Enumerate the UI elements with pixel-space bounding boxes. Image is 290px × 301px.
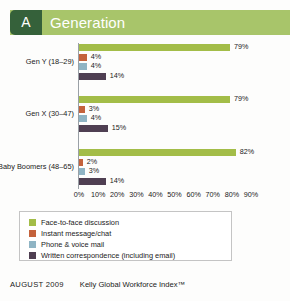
bar-value-label: 4% [91,61,101,71]
legend-item: Instant message/chat [29,228,231,238]
bar-row: 3% [79,106,251,113]
bar-row: 79% [79,96,251,103]
legend-item: Phone & voice mail [29,239,231,249]
footer-source: Kelly Global Workforce Index™ [80,280,185,289]
chart-page: A Generation Gen Y (18–29)79%4%4%14%Gen … [0,0,290,301]
bar [79,63,87,70]
legend-label: Instant message/chat [41,229,111,238]
bar [79,168,85,175]
x-axis-tick-label: 50% [167,190,181,200]
section-banner: A Generation [10,10,290,35]
bar-row: 4% [79,63,251,70]
bar-row: 3% [79,168,251,175]
bar [79,115,87,122]
bar-value-label: 79% [234,42,248,52]
bar-value-label: 4% [91,113,101,123]
x-axis-tick-label: 10% [91,190,105,200]
bar-row: 79% [79,44,251,51]
bar-value-label: 3% [89,166,99,176]
legend-item: Face-to-face discussion [29,217,231,227]
bar-row: 4% [79,54,251,61]
bar-value-label: 79% [234,94,248,104]
bar [79,106,85,113]
legend-label: Phone & voice mail [41,240,104,249]
x-axis-tick-label: 30% [129,190,143,200]
legend-label: Written correspondence (including email) [41,251,175,260]
bar-group: Gen Y (18–29)79%4%4%14% [0,44,290,80]
bar-group: Gen X (30–47)79%3%4%15% [0,96,290,132]
bar-row: 82% [79,149,251,156]
legend-swatch-icon [29,252,36,259]
x-axis-tick-label: 70% [206,190,220,200]
bar-row: 4% [79,115,251,122]
x-axis-tick-label: 20% [110,190,124,200]
bar-chart: Gen Y (18–29)79%4%4%14%Gen X (30–47)79%3… [0,40,290,205]
bar-value-label: 3% [89,104,99,114]
bar-group: Baby Boomers (48–65)82%2%3%14% [0,149,290,185]
category-label: Gen X (30–47) [0,109,74,118]
bar-row: 14% [79,73,251,80]
bar [79,96,230,103]
bar-value-label: 15% [112,123,126,133]
footer-date: AUGUST 2009 [10,280,64,289]
bar-value-label: 14% [110,71,124,81]
x-axis-tick-label: 40% [148,190,162,200]
x-axis: 0%10%20%30%40%50%60%70%80%90% [0,190,290,202]
bar [79,54,87,61]
category-label: Baby Boomers (48–65) [0,162,74,171]
section-letter-badge: A [10,10,42,35]
footer: AUGUST 2009 Kelly Global Workforce Index… [10,278,285,290]
bar-value-label: 14% [110,176,124,186]
bar-row: 14% [79,178,251,185]
bar [79,125,108,132]
section-title: Generation [50,10,125,35]
bar-row: 15% [79,125,251,132]
bar [79,159,83,166]
bar [79,178,106,185]
chart-legend: Face-to-face discussionInstant message/c… [19,211,232,261]
bar [79,44,230,51]
x-axis-tick-label: 80% [225,190,239,200]
bar [79,73,106,80]
bar-row: 2% [79,159,251,166]
x-axis-tick-label: 90% [244,190,258,200]
bar [79,149,236,156]
legend-swatch-icon [29,241,36,248]
category-label: Gen Y (18–29) [0,57,74,66]
bar-value-label: 82% [240,147,254,157]
legend-label: Face-to-face discussion [41,218,119,227]
x-axis-tick-label: 60% [186,190,200,200]
legend-swatch-icon [29,230,36,237]
x-axis-tick-label: 0% [74,190,84,200]
bar-value-label: 2% [87,157,97,167]
legend-item: Written correspondence (including email) [29,250,231,260]
bar-value-label: 4% [91,52,101,62]
legend-swatch-icon [29,219,36,226]
